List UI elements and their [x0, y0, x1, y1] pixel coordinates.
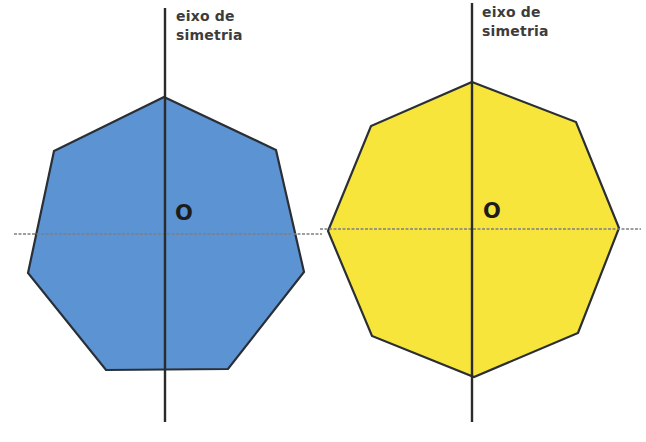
octagon-axis-label: eixo de simetria	[482, 3, 549, 41]
heptagon-axis-label: eixo de simetria	[176, 7, 243, 45]
octagon-center-label: O	[483, 201, 501, 222]
symmetry-diagram: eixo de simetria eixo de simetria O O	[0, 0, 646, 442]
diagram-canvas	[0, 0, 646, 442]
axis-label-line1: eixo de	[176, 7, 243, 26]
axis-label-line2: simetria	[482, 22, 549, 41]
axis-label-line2: simetria	[176, 26, 243, 45]
heptagon-center-label: O	[175, 203, 193, 224]
axis-label-line1: eixo de	[482, 3, 549, 22]
